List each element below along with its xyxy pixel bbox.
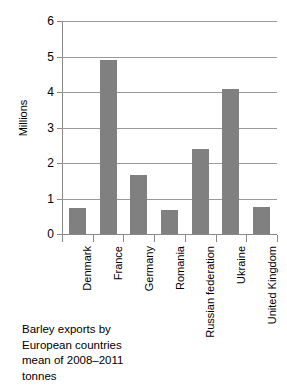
x-tick: [185, 235, 186, 242]
bar-chart: Millions 0123456 DenmarkFranceGermanyRom…: [0, 0, 287, 250]
y-tick-label-0: 0: [36, 228, 54, 240]
bar: [130, 175, 147, 234]
x-axis-label-romania: Romania: [175, 246, 186, 290]
gridline-3: [62, 128, 277, 129]
x-tick: [154, 235, 155, 242]
gridline-1: [62, 199, 277, 200]
x-tick: [277, 235, 278, 242]
x-tick: [93, 235, 94, 242]
bar: [161, 210, 178, 234]
y-tick-label-3: 3: [36, 122, 54, 134]
bar: [100, 60, 117, 234]
x-axis-label-united-kingdom: United Kingdom: [267, 246, 278, 324]
x-tick: [246, 235, 247, 242]
gridline-0: [62, 234, 277, 235]
x-axis-label-france: France: [113, 246, 124, 280]
bar: [192, 149, 209, 234]
caption: Barley exports by European countries mea…: [22, 322, 252, 384]
caption-line-4: tonnes: [22, 369, 252, 385]
caption-line-1: Barley exports by: [22, 322, 252, 338]
gridline-4: [62, 92, 277, 93]
x-axis-label-ukraine: Ukraine: [236, 246, 247, 284]
caption-line-3: mean of 2008–2011: [22, 353, 252, 369]
gridline-6: [62, 21, 277, 22]
x-tick: [216, 235, 217, 242]
bar: [222, 89, 239, 234]
figure: Millions 0123456 DenmarkFranceGermanyRom…: [0, 0, 287, 387]
gridline-2: [62, 163, 277, 164]
y-tick-label-2: 2: [36, 157, 54, 169]
bar: [69, 208, 86, 234]
y-tick-label-4: 4: [36, 86, 54, 98]
x-axis-label-germany: Germany: [144, 246, 155, 291]
x-tick: [62, 235, 63, 242]
x-tick: [123, 235, 124, 242]
caption-line-2: European countries: [22, 338, 252, 354]
gridline-5: [62, 57, 277, 58]
y-axis-title: Millions: [17, 86, 29, 150]
y-tick-label-1: 1: [36, 193, 54, 205]
bar: [253, 207, 270, 234]
plot-area: [62, 21, 277, 234]
y-tick-label-5: 5: [36, 51, 54, 63]
y-tick-label-6: 6: [36, 15, 54, 27]
x-axis-label-denmark: Denmark: [82, 246, 93, 291]
